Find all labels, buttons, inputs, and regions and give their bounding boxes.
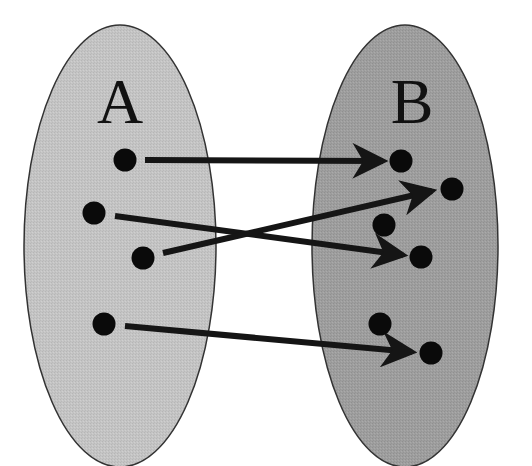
- point-a4: [93, 313, 116, 336]
- set-b-label: B: [391, 66, 434, 137]
- point-b2: [441, 178, 464, 201]
- arrow-a1-to-b1: [145, 160, 383, 161]
- diagram-svg: A B: [0, 0, 532, 466]
- point-a1: [114, 149, 137, 172]
- point-b1: [390, 150, 413, 173]
- point-a2: [83, 202, 106, 225]
- point-b6: [420, 342, 443, 365]
- point-b3: [373, 214, 396, 237]
- mapping-diagram: A B: [0, 0, 532, 466]
- point-a3: [132, 247, 155, 270]
- point-b5: [369, 313, 392, 336]
- point-b4: [410, 246, 433, 269]
- set-a-label: A: [97, 66, 143, 137]
